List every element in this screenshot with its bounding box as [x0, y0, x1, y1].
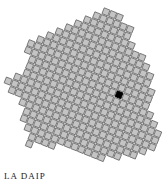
tile[interactable]: [72, 42, 80, 50]
tile[interactable]: [102, 8, 110, 16]
tile[interactable]: [118, 84, 126, 92]
tile[interactable]: [101, 31, 109, 39]
tile[interactable]: [110, 104, 118, 112]
tile[interactable]: [97, 21, 105, 29]
tile[interactable]: [84, 148, 92, 156]
tile[interactable]: [93, 144, 101, 152]
tile[interactable]: [24, 46, 32, 54]
tile[interactable]: [48, 64, 56, 72]
tile[interactable]: [123, 32, 131, 40]
tile[interactable]: [79, 45, 87, 53]
tile[interactable]: [114, 75, 122, 83]
tile[interactable]: [73, 136, 81, 144]
tile[interactable]: [60, 92, 68, 100]
tile[interactable]: [20, 115, 28, 123]
tile[interactable]: [46, 32, 54, 40]
tile[interactable]: [71, 26, 79, 34]
tile[interactable]: [79, 123, 87, 131]
tile[interactable]: [138, 92, 146, 100]
tile[interactable]: [95, 121, 103, 129]
tile[interactable]: [60, 131, 68, 139]
tile[interactable]: [99, 53, 107, 61]
tile[interactable]: [120, 116, 128, 124]
tile[interactable]: [135, 138, 143, 146]
tile[interactable]: [74, 59, 82, 67]
tile[interactable]: [105, 40, 113, 48]
tile[interactable]: [63, 85, 71, 93]
tile[interactable]: [100, 147, 108, 155]
tile[interactable]: [109, 11, 117, 19]
tile[interactable]: [52, 112, 60, 120]
tile[interactable]: [77, 145, 85, 153]
tile[interactable]: [71, 143, 79, 151]
tile[interactable]: [56, 83, 64, 91]
tile[interactable]: [143, 118, 151, 126]
tile[interactable]: [144, 95, 152, 103]
tile[interactable]: [98, 76, 106, 84]
tile[interactable]: [65, 117, 73, 125]
tile-grid[interactable]: [0, 0, 163, 179]
tile[interactable]: [39, 68, 47, 76]
tile[interactable]: [71, 104, 79, 112]
tile[interactable]: [135, 99, 143, 107]
tile[interactable]: [138, 131, 146, 139]
tile[interactable]: [128, 135, 136, 143]
tile[interactable]: [106, 56, 114, 64]
tile[interactable]: [92, 128, 100, 136]
tile[interactable]: [53, 128, 61, 136]
tile[interactable]: [36, 36, 44, 44]
tile[interactable]: [62, 69, 70, 77]
tile[interactable]: [154, 130, 162, 138]
tile[interactable]: [131, 51, 139, 59]
tile[interactable]: [68, 33, 76, 41]
tile[interactable]: [25, 140, 33, 148]
tile[interactable]: [121, 39, 129, 47]
tile[interactable]: [88, 41, 96, 49]
tile[interactable]: [72, 81, 80, 89]
tile[interactable]: [33, 120, 41, 128]
tile[interactable]: [123, 71, 131, 79]
tile[interactable]: [115, 130, 123, 138]
tile[interactable]: [139, 69, 147, 77]
tile[interactable]: [28, 94, 36, 102]
tile[interactable]: [75, 75, 83, 83]
tile[interactable]: [40, 45, 48, 53]
tile[interactable]: [59, 76, 67, 84]
tile[interactable]: [118, 123, 126, 131]
tile[interactable]: [123, 148, 131, 156]
tile[interactable]: [67, 95, 75, 103]
tile[interactable]: [100, 108, 108, 116]
tile[interactable]: [45, 109, 53, 117]
tile[interactable]: [124, 87, 132, 95]
tile[interactable]: [129, 57, 137, 65]
tile[interactable]: [144, 134, 152, 142]
tile[interactable]: [99, 15, 107, 23]
tile[interactable]: [114, 113, 122, 121]
tile[interactable]: [136, 115, 144, 123]
tile[interactable]: [150, 120, 158, 128]
tile[interactable]: [143, 79, 151, 87]
tile[interactable]: [43, 38, 51, 46]
tile[interactable]: [86, 125, 94, 133]
tile[interactable]: [138, 53, 146, 61]
tile[interactable]: [122, 93, 130, 101]
tile[interactable]: [63, 124, 71, 132]
marked-tile[interactable]: [115, 91, 123, 99]
tile[interactable]: [4, 77, 12, 85]
tile[interactable]: [142, 102, 150, 110]
tile[interactable]: [23, 108, 31, 116]
tile[interactable]: [34, 81, 42, 89]
tile[interactable]: [117, 29, 125, 37]
tile[interactable]: [51, 96, 59, 104]
tile[interactable]: [80, 139, 88, 147]
tile[interactable]: [127, 41, 135, 49]
tile[interactable]: [116, 107, 124, 115]
tile[interactable]: [27, 117, 35, 125]
tile[interactable]: [31, 49, 39, 57]
tile[interactable]: [24, 85, 32, 93]
tile[interactable]: [64, 63, 72, 71]
tile[interactable]: [70, 49, 78, 57]
tile[interactable]: [24, 124, 32, 132]
tile[interactable]: [74, 97, 82, 105]
tile[interactable]: [134, 122, 142, 130]
